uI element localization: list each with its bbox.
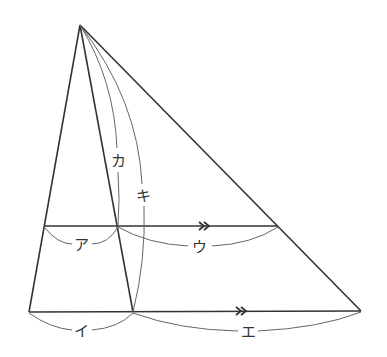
label-u: ウ (192, 238, 207, 256)
segment-lower-parallel (29, 311, 361, 312)
label-i: イ (74, 322, 89, 340)
label-a: ア (74, 236, 89, 254)
geometry-diagram: ア ウ イ エ カ キ (0, 0, 387, 357)
label-ki: キ (136, 187, 151, 205)
segment-apex-lower-left (29, 25, 80, 312)
label-ka: カ (111, 152, 126, 170)
parallel-markers (199, 222, 246, 315)
label-e: エ (241, 323, 256, 341)
